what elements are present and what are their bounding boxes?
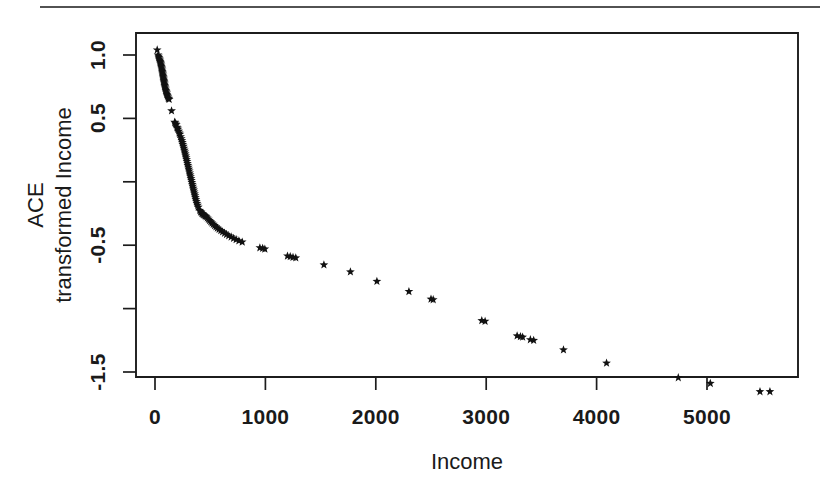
x-axis-tick-label: 3000 <box>462 405 510 429</box>
data-point-star-icon <box>373 277 382 285</box>
data-point-star-icon <box>756 387 765 395</box>
screenshot-root: 010002000300040005000 1.00.5-0.5-1.5 Inc… <box>0 0 839 498</box>
x-axis-tick-label: 2000 <box>352 405 400 429</box>
data-point-markers <box>153 45 774 395</box>
x-axis-tick-label: 0 <box>149 405 161 429</box>
x-axis-title: Income <box>431 449 503 475</box>
data-point-star-icon <box>559 345 568 353</box>
plot-box-border <box>136 33 798 377</box>
data-point-star-icon <box>602 359 611 367</box>
y-axis-ticks <box>123 55 136 372</box>
x-axis-tick-label: 5000 <box>683 405 731 429</box>
y-axis-tick-label: 1.0 <box>86 40 110 70</box>
y-axis-tick-label: 0.5 <box>86 103 110 133</box>
data-point-star-icon <box>766 387 775 395</box>
data-point-star-icon <box>674 373 683 381</box>
y-axis-title-line-2: transformed Income <box>51 107 77 303</box>
data-point-star-icon <box>153 45 162 53</box>
y-axis-tick-label: -1.5 <box>86 353 110 390</box>
data-point-star-icon <box>405 287 414 295</box>
x-axis-ticks <box>155 377 707 390</box>
y-axis-tick-label: -0.5 <box>86 226 110 263</box>
x-axis-tick-label: 4000 <box>573 405 621 429</box>
data-point-star-icon <box>320 260 329 268</box>
y-axis-title-line-1: ACE <box>23 182 49 227</box>
data-point-star-icon <box>346 267 355 275</box>
data-point-star-icon <box>167 106 176 114</box>
plot-frame <box>136 33 798 377</box>
x-axis-tick-label: 1000 <box>241 405 289 429</box>
scatter-plot-figure: 010002000300040005000 1.00.5-0.5-1.5 Inc… <box>0 0 839 498</box>
